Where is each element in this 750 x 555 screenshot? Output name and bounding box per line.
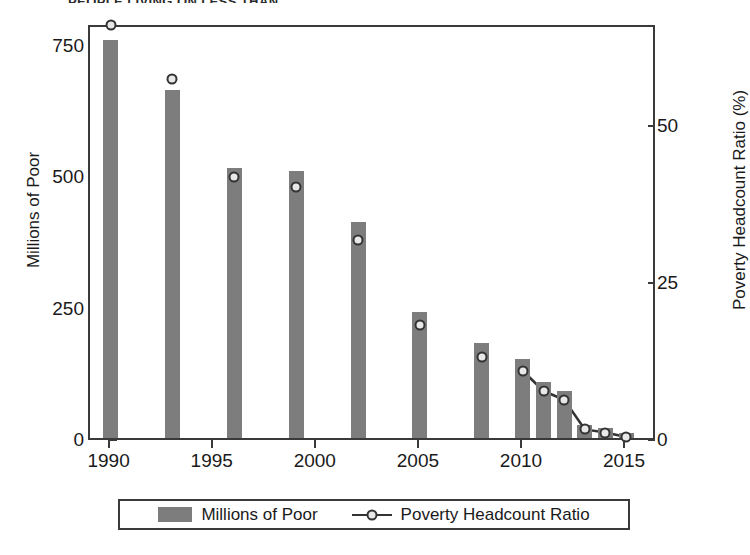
bar-1993 (165, 90, 180, 438)
data-point-marker-2008 (476, 352, 487, 363)
chart-title: PEOPLE LIVING ON LESS THAN (68, 0, 278, 3)
x-tickmark-2015 (623, 440, 625, 448)
x-tickmark-2005 (417, 440, 419, 448)
data-point-marker-1999 (291, 181, 302, 192)
y-axis-left-ticks: 0250500750 (58, 25, 84, 440)
y-left-tick-250: 250 (52, 298, 84, 320)
plot-frame (88, 25, 655, 440)
legend-label-poverty-headcount-ratio: Poverty Headcount Ratio (401, 505, 590, 525)
y-right-tick-25: 25 (657, 272, 678, 294)
bar-2005 (412, 312, 427, 438)
bar-1999 (289, 171, 304, 438)
bar-1990 (103, 40, 118, 438)
x-tickmark-2000 (314, 440, 316, 448)
data-point-marker-1990 (105, 20, 116, 31)
y-axis-right-ticks: 02550 (657, 25, 683, 440)
legend-line-swatch (352, 509, 392, 521)
data-point-marker-2010 (517, 365, 528, 376)
x-tick-label-2005: 2005 (397, 450, 439, 472)
y-left-tick-500: 500 (52, 166, 84, 188)
x-tickmark-2010 (520, 440, 522, 448)
y-left-tick-750: 750 (52, 35, 84, 57)
data-point-marker-2005 (414, 320, 425, 331)
x-tick-label-1995: 1995 (191, 450, 233, 472)
data-point-marker-2002 (353, 235, 364, 246)
data-point-marker-2014 (600, 427, 611, 438)
data-point-marker-2013 (579, 424, 590, 435)
plot-area (90, 27, 653, 438)
legend-circle-marker-icon (366, 509, 377, 520)
data-point-marker-2011 (538, 386, 549, 397)
x-tickmark-1995 (211, 440, 213, 448)
y-left-tick-0: 0 (73, 429, 84, 451)
x-tick-label-2015: 2015 (603, 450, 645, 472)
bar-1996 (227, 168, 242, 438)
y-right-tick-0: 0 (657, 429, 668, 451)
data-point-marker-2012 (559, 394, 570, 405)
data-point-marker-1996 (229, 171, 240, 182)
y-axis-right-title: Poverty Headcount Ratio (%) (730, 50, 750, 350)
chart-legend: Millions of Poor Poverty Headcount Ratio (118, 499, 630, 530)
y-right-tick-50: 50 (657, 115, 678, 137)
x-tick-label-2010: 2010 (500, 450, 542, 472)
bar-2002 (351, 222, 366, 438)
y-axis-left-title: Millions of Poor (24, 90, 44, 330)
x-tick-label-1990: 1990 (87, 450, 129, 472)
legend-label-millions-of-poor: Millions of Poor (201, 505, 317, 525)
legend-bar-swatch (158, 507, 192, 522)
x-axis: 199019952000200520102015 (88, 440, 655, 474)
data-point-marker-1993 (167, 73, 178, 84)
x-tickmark-1990 (108, 440, 110, 448)
x-tick-label-2000: 2000 (294, 450, 336, 472)
legend-entry-millions-of-poor[interactable]: Millions of Poor (158, 505, 317, 525)
legend-entry-poverty-headcount-ratio[interactable]: Poverty Headcount Ratio (352, 505, 590, 525)
